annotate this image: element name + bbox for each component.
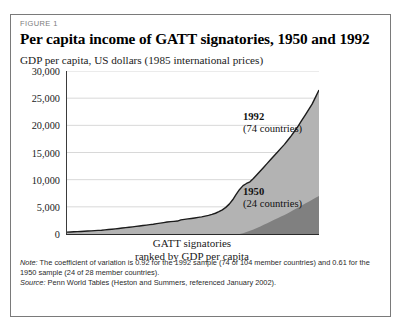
note-line: Note: The coefficient of variation is 0.… (20, 258, 384, 277)
note-prefix: Note: (20, 258, 38, 267)
y-tick-label: 10,000 (32, 174, 60, 185)
y-tick-label: 25,000 (32, 93, 60, 104)
y-axis-tick-labels: 05,00010,00015,00020,00025,00030,000 (20, 71, 64, 234)
series-1950-annotation: 1950 (24 countries) (243, 186, 302, 211)
series-1992-annotation: 1992 (74 countries) (243, 111, 302, 136)
figure-notes: Note: The coefficient of variation is 0.… (20, 258, 384, 289)
source-text: Penn World Tables (Heston and Summers, r… (45, 278, 276, 287)
y-tick-label: 0 (55, 229, 60, 240)
series-1992-label: 1992 (243, 111, 264, 122)
source-prefix: Source: (20, 278, 45, 287)
plot-canvas: 1992 (74 countries) 1950 (24 countries) (66, 71, 319, 235)
y-tick-label: 30,000 (32, 66, 60, 77)
series-1950-label: 1950 (243, 186, 264, 197)
figure-card: FIGURE 1 Per capita income of GATT signa… (10, 14, 391, 317)
chart-area: 05,00010,00015,00020,00025,00030,000 199… (20, 71, 382, 255)
y-tick-label: 5,000 (37, 201, 60, 212)
source-line: Source: Penn World Tables (Heston and Su… (20, 278, 384, 288)
y-axis-caption: GDP per capita, US dollars (1985 interna… (20, 54, 263, 66)
series-1950-sublabel: (24 countries) (243, 198, 302, 209)
note-text: The coefficient of variation is 0.92 for… (20, 258, 370, 277)
x-axis-caption-line1: GATT signatories (66, 237, 318, 250)
series-1992-sublabel: (74 countries) (243, 123, 302, 134)
y-tick-label: 15,000 (32, 147, 60, 158)
figure-title: Per capita income of GATT signatories, 1… (20, 30, 386, 48)
figure-number-label: FIGURE 1 (20, 19, 58, 28)
y-tick-label: 20,000 (32, 120, 60, 131)
